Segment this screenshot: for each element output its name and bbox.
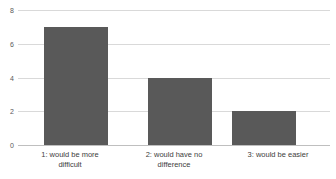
y-tick-label-4: 4: [0, 74, 14, 81]
y-tick-label-2: 2: [0, 108, 14, 115]
bar-category-2: [148, 78, 212, 146]
gridline-0-baseline: [18, 145, 330, 146]
x-axis-label-1: 1: would be more difficult: [18, 148, 122, 174]
bars-layer: [18, 10, 330, 145]
bar-chart: 8 6 4 2 0 1: would be more difficult 2: …: [0, 0, 336, 179]
bar-category-3: [232, 111, 296, 145]
y-tick-label-6: 6: [0, 40, 14, 47]
y-tick-label-0: 0: [0, 142, 14, 149]
x-axis-label-3: 3: would be easier: [226, 148, 330, 174]
x-axis-labels: 1: would be more difficult 2: would have…: [18, 148, 330, 174]
bar-category-1: [44, 27, 108, 145]
y-tick-label-8: 8: [0, 7, 14, 14]
x-axis-label-2: 2: would have no difference: [122, 148, 226, 174]
